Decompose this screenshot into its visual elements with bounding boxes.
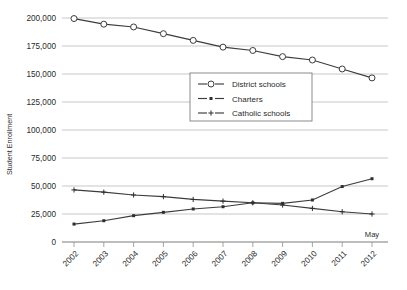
data-point-marker-square (73, 223, 76, 226)
data-point-marker-circle (250, 47, 256, 53)
y-axis-title: Student Enrollment (5, 114, 14, 175)
data-point-marker-square (311, 199, 314, 202)
y-axis-tick-label: 50,000 (31, 182, 56, 191)
data-point-marker-circle (339, 66, 345, 72)
data-point-marker-square (371, 177, 374, 180)
data-point-marker-square (162, 211, 165, 214)
legend-label: Charters (232, 95, 263, 104)
data-point-marker-square (210, 97, 213, 100)
y-axis-tick-labels: 025,00050,00075,000100,000125,000150,000… (26, 14, 56, 247)
data-point-marker-circle (208, 81, 214, 87)
data-point-marker-square (341, 185, 344, 188)
chart-legend: District schoolsChartersCatholic schools (190, 73, 312, 121)
chart-annotations: May (365, 230, 380, 239)
data-point-marker-circle (190, 37, 196, 43)
data-point-marker-square (132, 214, 135, 217)
data-point-marker-square (102, 219, 105, 222)
y-axis-tick-label: 175,000 (26, 42, 56, 51)
data-point-marker-circle (309, 57, 315, 63)
chart-background (0, 0, 407, 290)
annotation-may: May (365, 230, 380, 239)
y-axis-tick-label: 200,000 (26, 14, 56, 23)
data-point-marker-circle (280, 54, 286, 60)
y-axis-tick-label: 150,000 (26, 70, 56, 79)
data-point-marker-circle (160, 31, 166, 37)
y-axis-tick-label: 75,000 (31, 154, 56, 163)
y-axis-tick-label: 0 (51, 238, 56, 247)
y-axis-tick-label: 25,000 (31, 210, 56, 219)
data-point-marker-square (222, 205, 225, 208)
data-point-marker-circle (131, 24, 137, 30)
legend-label: District schools (232, 80, 286, 89)
y-axis-tick-label: 125,000 (26, 98, 56, 107)
enrollment-line-chart: 025,00050,00075,000100,000125,000150,000… (0, 0, 407, 290)
chart-canvas: 025,00050,00075,000100,000125,000150,000… (0, 0, 407, 290)
data-point-marker-circle (369, 75, 375, 81)
data-point-marker-circle (220, 44, 226, 50)
y-axis-tick-label: 100,000 (26, 126, 56, 135)
data-point-marker-circle (101, 21, 107, 27)
data-point-marker-circle (71, 16, 77, 22)
legend-label: Catholic schools (232, 109, 290, 118)
data-point-marker-square (192, 207, 195, 210)
